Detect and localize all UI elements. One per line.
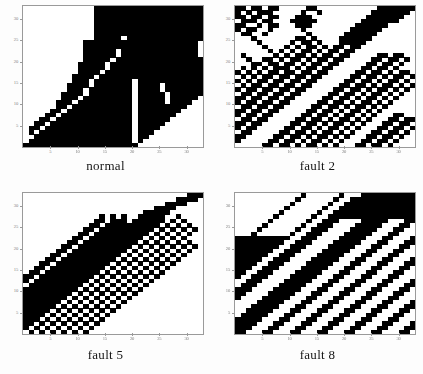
x-tick-label: 15 — [103, 149, 107, 155]
panel-normal: 51015202530 51015202530 normal — [0, 0, 211, 187]
x-tick-label: 30 — [185, 149, 189, 155]
x-tick-mark — [132, 146, 133, 149]
y-axis-labels-fault-2: 51015202530 — [212, 5, 232, 148]
x-tick-label: 20 — [342, 149, 346, 155]
y-tick-label: 5 — [228, 123, 230, 128]
panel-caption-normal: normal — [0, 158, 211, 174]
y-tick-label: 15 — [14, 267, 18, 272]
x-tick-label: 30 — [397, 149, 401, 155]
x-tick-label: 20 — [130, 149, 134, 155]
x-tick-mark — [371, 333, 372, 336]
x-tick-mark — [399, 146, 400, 149]
x-tick-label: 5 — [261, 336, 263, 342]
x-tick-label: 15 — [103, 336, 107, 342]
x-tick-mark — [317, 146, 318, 149]
y-tick-label: 30 — [226, 16, 230, 21]
y-tick-label: 15 — [226, 80, 230, 85]
y-tick-label: 10 — [14, 101, 18, 106]
x-tick-label: 25 — [157, 149, 161, 155]
x-tick-label: 15 — [315, 336, 319, 342]
x-tick-mark — [78, 146, 79, 149]
x-tick-mark — [78, 333, 79, 336]
x-tick-mark — [105, 146, 106, 149]
y-axis-labels-fault-5: 51015202530 — [0, 192, 20, 335]
x-tick-label: 10 — [287, 336, 291, 342]
x-tick-mark — [50, 333, 51, 336]
x-tick-label: 20 — [130, 336, 134, 342]
x-tick-label: 20 — [342, 336, 346, 342]
y-tick-label: 30 — [14, 203, 18, 208]
y-tick-label: 10 — [14, 288, 18, 293]
x-tick-mark — [262, 146, 263, 149]
x-tick-label: 25 — [369, 149, 373, 155]
y-axis-labels-normal: 51015202530 — [0, 5, 20, 148]
y-tick-label: 30 — [226, 203, 230, 208]
y-tick-label: 5 — [16, 310, 18, 315]
plot-area-fault-2: 51015202530 51015202530 — [212, 0, 423, 160]
y-tick-label: 25 — [14, 37, 18, 42]
x-tick-mark — [290, 333, 291, 336]
x-tick-label: 25 — [369, 336, 373, 342]
y-tick-label: 25 — [14, 224, 18, 229]
panel-caption-fault-5: fault 5 — [0, 347, 211, 363]
x-tick-label: 30 — [185, 336, 189, 342]
x-tick-mark — [132, 333, 133, 336]
plot-area-normal: 51015202530 51015202530 — [0, 0, 211, 160]
y-tick-label: 20 — [226, 59, 230, 64]
y-tick-label: 5 — [16, 123, 18, 128]
y-tick-label: 25 — [226, 37, 230, 42]
y-tick-label: 30 — [14, 16, 18, 21]
x-tick-mark — [159, 146, 160, 149]
x-tick-mark — [187, 333, 188, 336]
x-axis-labels-fault-8: 51015202530 — [234, 336, 416, 345]
y-tick-label: 20 — [14, 59, 18, 64]
x-tick-label: 5 — [49, 336, 51, 342]
y-tick-label: 10 — [226, 288, 230, 293]
y-tick-label: 25 — [226, 224, 230, 229]
panel-caption-fault-8: fault 8 — [212, 347, 423, 363]
x-tick-label: 5 — [49, 149, 51, 155]
y-tick-label: 20 — [226, 246, 230, 251]
plot-area-fault-8: 51015202530 51015202530 — [212, 187, 423, 347]
heatmap-canvas-fault-5 — [23, 193, 203, 334]
x-tick-mark — [344, 146, 345, 149]
heatmap-canvas-fault-8 — [235, 193, 415, 334]
x-tick-label: 10 — [75, 336, 79, 342]
x-tick-mark — [159, 333, 160, 336]
panel-fault-8: 51015202530 51015202530 fault 8 — [212, 187, 423, 374]
x-tick-mark — [290, 146, 291, 149]
x-tick-label: 25 — [157, 336, 161, 342]
x-axis-labels-fault-5: 51015202530 — [22, 336, 204, 345]
x-tick-label: 10 — [287, 149, 291, 155]
x-tick-mark — [262, 333, 263, 336]
x-tick-label: 10 — [75, 149, 79, 155]
y-axis-labels-fault-8: 51015202530 — [212, 192, 232, 335]
x-tick-label: 5 — [261, 149, 263, 155]
heatmap-canvas-fault-2 — [235, 6, 415, 147]
y-tick-label: 10 — [226, 101, 230, 106]
heatmap-canvas-normal — [23, 6, 203, 147]
axes-box-fault-8 — [234, 192, 416, 335]
axes-box-normal — [22, 5, 204, 148]
x-tick-mark — [50, 146, 51, 149]
y-tick-label: 5 — [228, 310, 230, 315]
x-axis-labels-normal: 51015202530 — [22, 149, 204, 158]
plot-area-fault-5: 51015202530 51015202530 — [0, 187, 211, 347]
axes-box-fault-2 — [234, 5, 416, 148]
x-tick-label: 15 — [315, 149, 319, 155]
x-tick-mark — [105, 333, 106, 336]
x-tick-mark — [317, 333, 318, 336]
x-tick-label: 30 — [397, 336, 401, 342]
axes-box-fault-5 — [22, 192, 204, 335]
x-tick-mark — [187, 146, 188, 149]
panel-fault-5: 51015202530 51015202530 fault 5 — [0, 187, 211, 374]
y-tick-label: 20 — [14, 246, 18, 251]
x-tick-mark — [344, 333, 345, 336]
x-axis-labels-fault-2: 51015202530 — [234, 149, 416, 158]
panel-caption-fault-2: fault 2 — [212, 158, 423, 174]
x-tick-mark — [371, 146, 372, 149]
y-tick-label: 15 — [226, 267, 230, 272]
x-tick-mark — [399, 333, 400, 336]
y-tick-label: 15 — [14, 80, 18, 85]
panel-fault-2: 51015202530 51015202530 fault 2 — [212, 0, 423, 187]
